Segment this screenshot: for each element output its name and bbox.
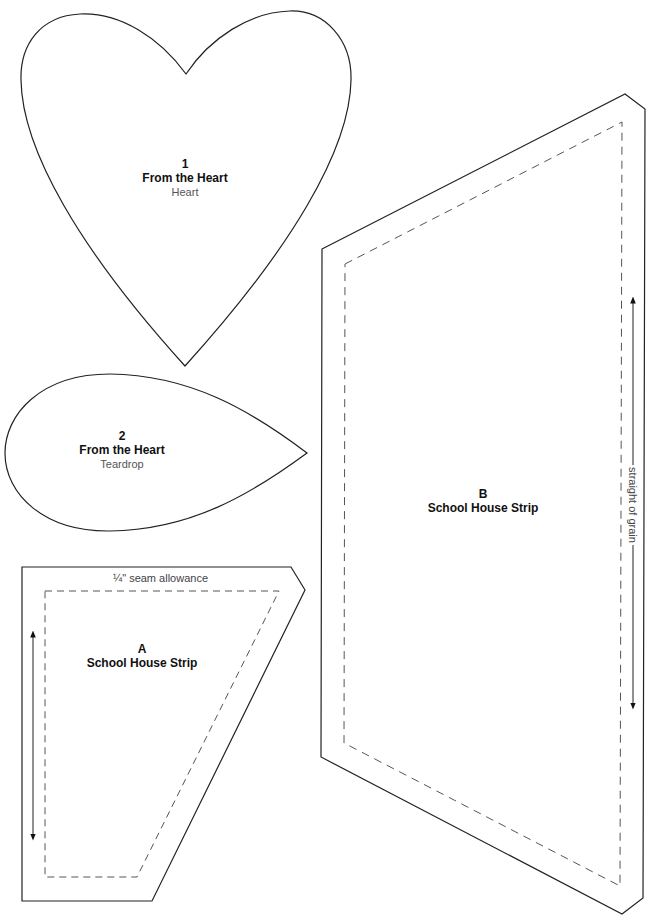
heart-label: 1 From the Heart Heart bbox=[142, 158, 227, 198]
piece-b-label: B School House Strip bbox=[428, 488, 539, 516]
piece-a-title: School House Strip bbox=[87, 657, 198, 671]
heart-title: From the Heart bbox=[142, 172, 227, 186]
piece-a-cut-line bbox=[22, 567, 305, 901]
heart-number: 1 bbox=[142, 158, 227, 172]
teardrop-title: From the Heart bbox=[79, 444, 164, 458]
piece-a-label: A School House Strip bbox=[87, 643, 198, 671]
teardrop-label: 2 From the Heart Teardrop bbox=[79, 430, 164, 470]
piece-b-title: School House Strip bbox=[428, 502, 539, 516]
piece-b-letter: B bbox=[428, 488, 539, 502]
teardrop-subtitle: Teardrop bbox=[79, 458, 164, 471]
seam-allowance-label: ¼" seam allowance bbox=[113, 572, 208, 584]
grain-label: straight of grain bbox=[627, 465, 639, 545]
teardrop-number: 2 bbox=[79, 430, 164, 444]
heart-subtitle: Heart bbox=[142, 186, 227, 199]
piece-a-letter: A bbox=[87, 643, 198, 657]
piece-a-seam-line bbox=[45, 591, 279, 877]
